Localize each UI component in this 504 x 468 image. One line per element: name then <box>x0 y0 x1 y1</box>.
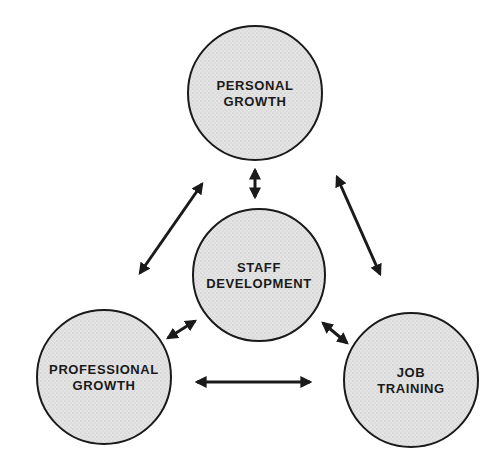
node-label-personal-line-1: GROWTH <box>224 94 287 109</box>
node-professional: PROFESSIONALGROWTH <box>37 310 171 444</box>
node-personal: PERSONALGROWTH <box>188 26 322 160</box>
node-label-staff-line-0: STAFF <box>237 260 281 275</box>
double-arrow-icon-personal-job <box>337 177 380 274</box>
node-label-staff-line-1: DEVELOPMENT <box>206 276 312 291</box>
node-label-job-line-1: TRAINING <box>377 381 445 396</box>
nodes-group: PERSONALGROWTHSTAFFDEVELOPMENTPROFESSION… <box>37 26 478 447</box>
circle-job <box>344 313 478 447</box>
node-staff: STAFFDEVELOPMENT <box>193 209 325 341</box>
staff-development-diagram: PERSONALGROWTHSTAFFDEVELOPMENTPROFESSION… <box>0 0 504 468</box>
node-label-personal-line-0: PERSONAL <box>216 78 293 93</box>
circle-professional <box>37 310 171 444</box>
circle-personal <box>188 26 322 160</box>
double-arrow-icon-staff-job <box>323 323 347 343</box>
node-label-professional-line-1: GROWTH <box>73 378 136 393</box>
node-job: JOBTRAINING <box>344 313 478 447</box>
double-arrow-icon-staff-professional <box>168 321 195 338</box>
circle-staff <box>193 209 325 341</box>
node-label-professional-line-0: PROFESSIONAL <box>49 362 159 377</box>
double-arrow-icon-personal-professional <box>140 184 202 273</box>
node-label-job-line-0: JOB <box>397 365 426 380</box>
